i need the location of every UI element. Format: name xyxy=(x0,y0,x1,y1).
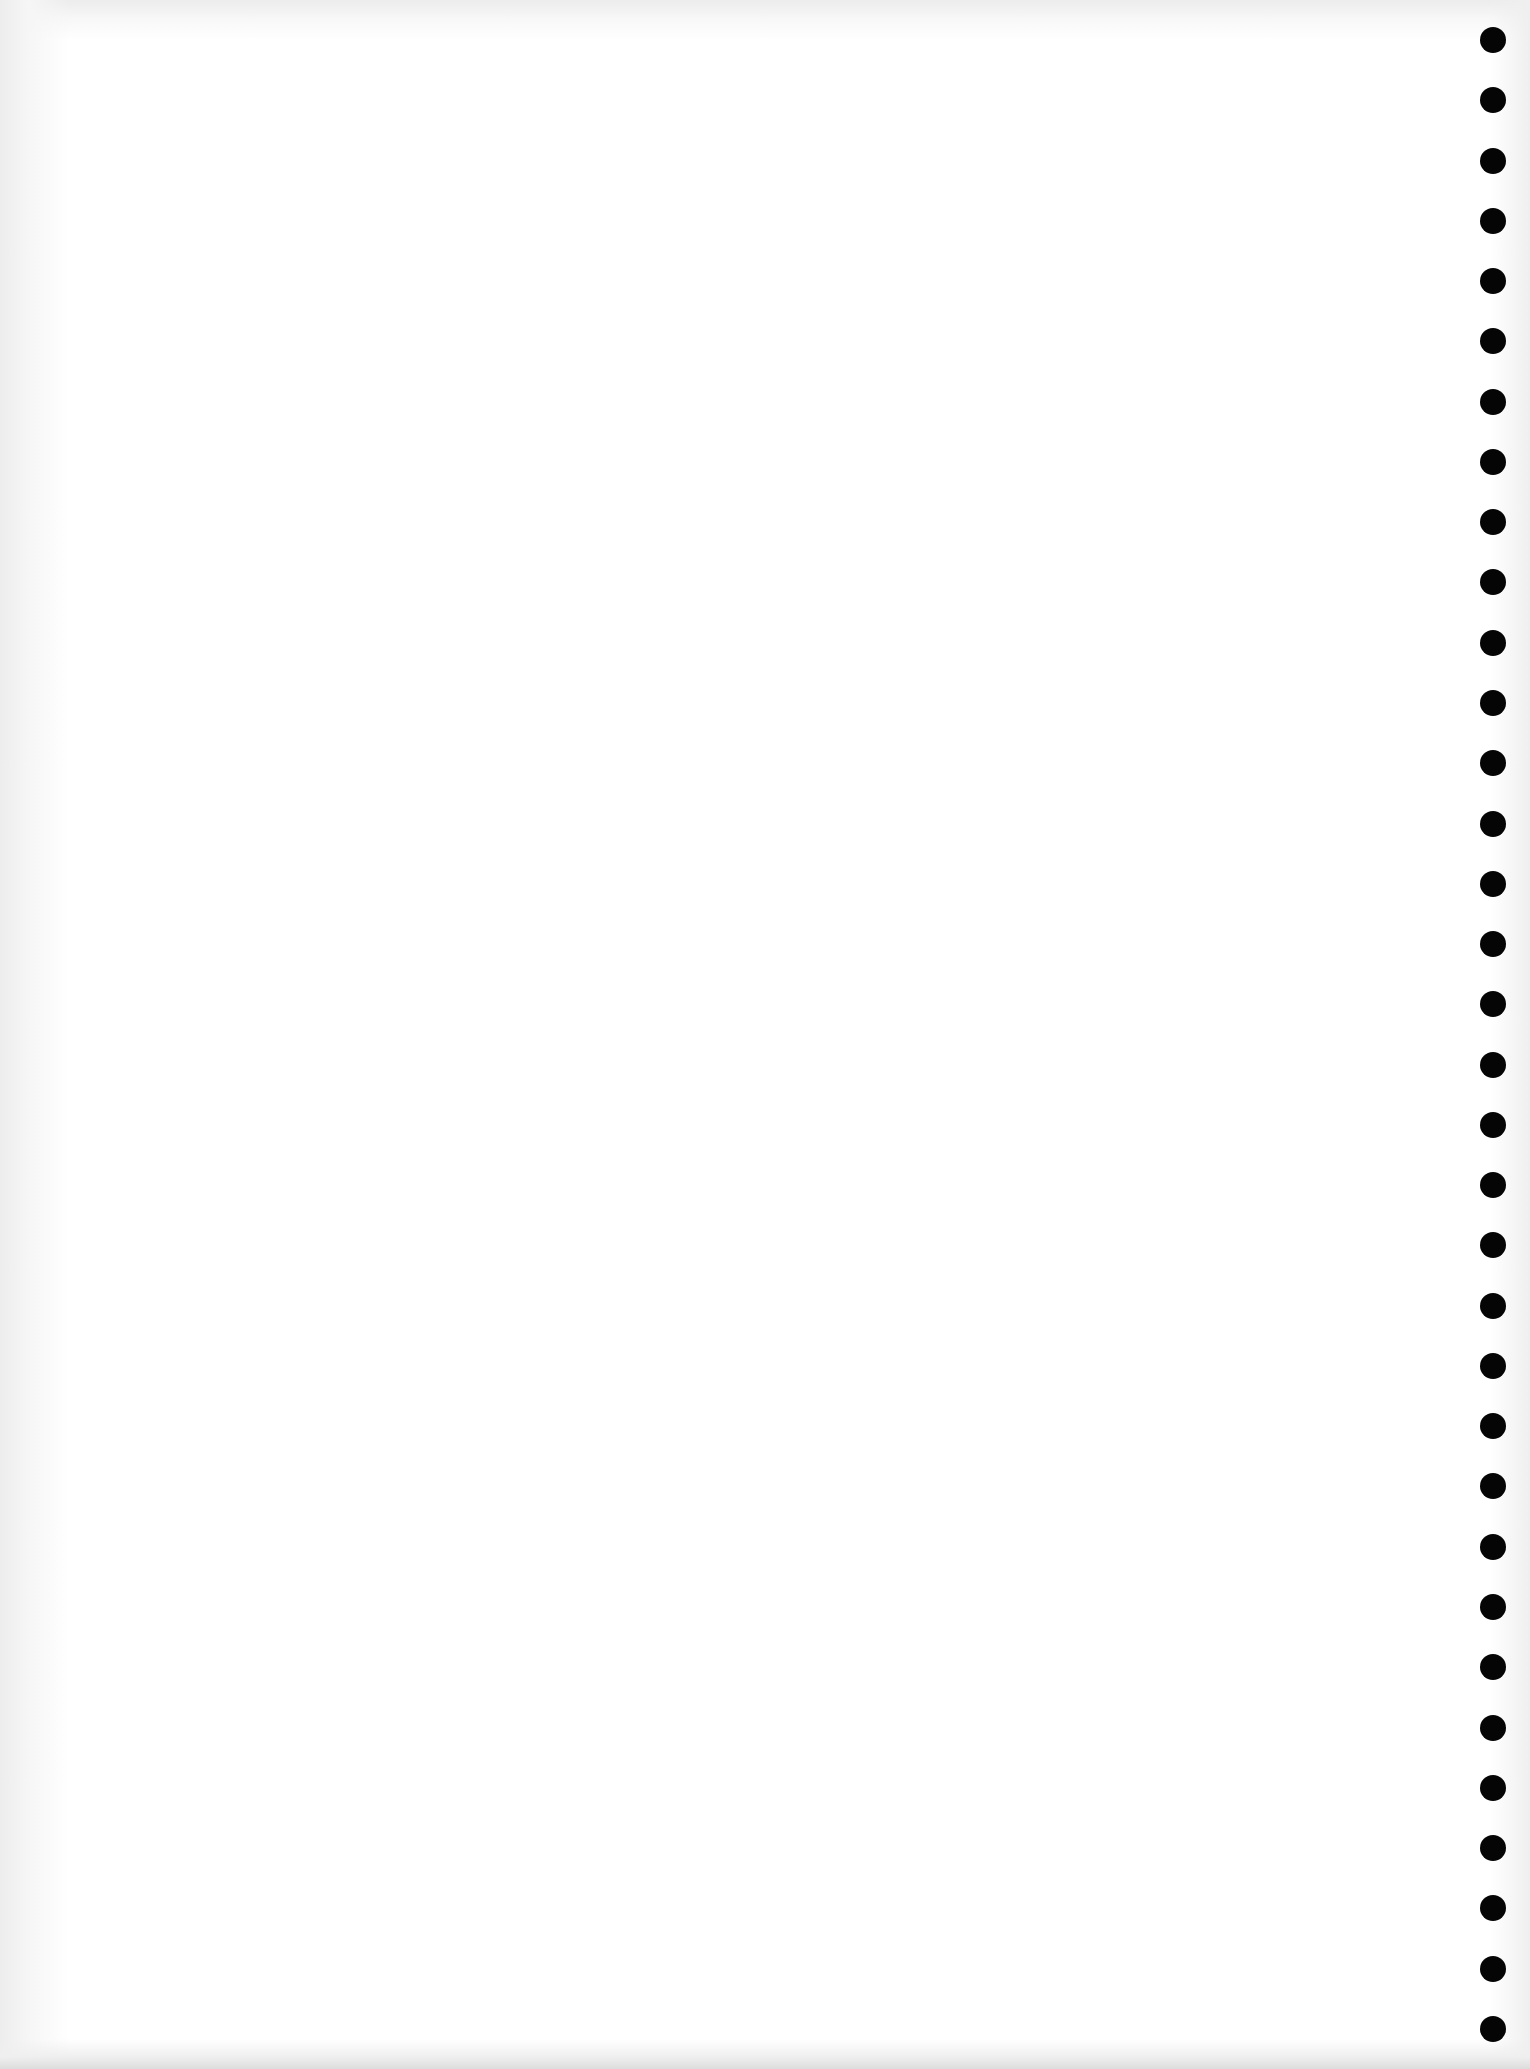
perforation-hole-icon xyxy=(1480,449,1506,475)
perforation-hole-icon xyxy=(1480,1534,1506,1560)
perforation-hole-icon xyxy=(1480,509,1506,535)
perforation-hole-icon xyxy=(1480,1413,1506,1439)
perforation-hole-icon xyxy=(1480,690,1506,716)
perforation-hole-icon xyxy=(1480,268,1506,294)
perforation-hole-icon xyxy=(1480,991,1506,1017)
perforation-hole-icon xyxy=(1480,328,1506,354)
perforation-hole-icon xyxy=(1480,1172,1506,1198)
perforation-hole-icon xyxy=(1480,1232,1506,1258)
perforation-hole-icon xyxy=(1480,1835,1506,1861)
perforation-hole-icon xyxy=(1480,1052,1506,1078)
perforation-hole-icon xyxy=(1480,1956,1506,1982)
perforation-hole-icon xyxy=(1480,1715,1506,1741)
perforation-hole-icon xyxy=(1480,1353,1506,1379)
perforation-hole-icon xyxy=(1480,1112,1506,1138)
perforation-hole-icon xyxy=(1480,208,1506,234)
perforation-hole-icon xyxy=(1480,569,1506,595)
perforation-hole-icon xyxy=(1480,871,1506,897)
perforation-hole-icon xyxy=(1480,87,1506,113)
perforation-hole-icon xyxy=(1480,2016,1506,2042)
perforation-column xyxy=(0,0,1530,2069)
perforation-hole-icon xyxy=(1480,1775,1506,1801)
perforation-hole-icon xyxy=(1480,1594,1506,1620)
perforation-hole-icon xyxy=(1480,148,1506,174)
perforation-hole-icon xyxy=(1480,1473,1506,1499)
perforation-hole-icon xyxy=(1480,1654,1506,1680)
perforation-hole-icon xyxy=(1480,1293,1506,1319)
perforation-hole-icon xyxy=(1480,389,1506,415)
blank-page xyxy=(0,0,1530,2069)
perforation-hole-icon xyxy=(1480,630,1506,656)
perforation-hole-icon xyxy=(1480,27,1506,53)
perforation-hole-icon xyxy=(1480,931,1506,957)
perforation-hole-icon xyxy=(1480,1895,1506,1921)
perforation-hole-icon xyxy=(1480,811,1506,837)
perforation-hole-icon xyxy=(1480,750,1506,776)
